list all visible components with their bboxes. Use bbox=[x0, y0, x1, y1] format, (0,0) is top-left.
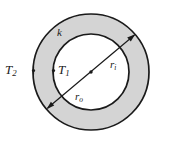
label-inner-temperature: T1 bbox=[58, 63, 70, 76]
label-outer-radius: ro bbox=[75, 91, 83, 102]
annulus-diagram-svg bbox=[0, 0, 175, 154]
annulus-figure: T2 T1 k ri ro bbox=[0, 0, 175, 154]
label-outer-temperature: T2 bbox=[5, 63, 17, 76]
label-inner-radius: ri bbox=[110, 59, 116, 70]
label-thermal-conductivity: k bbox=[57, 27, 62, 38]
center-point-dot bbox=[89, 70, 92, 73]
